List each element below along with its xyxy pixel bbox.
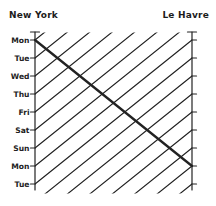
westbound-ship-line: [35, 112, 192, 206]
westbound-ship-line: [35, 4, 192, 130]
day-label: Mon: [11, 162, 29, 171]
day-label: Wed: [11, 72, 30, 81]
day-label: Thu: [14, 90, 30, 99]
westbound-ship-line: [35, 166, 192, 206]
day-label: Tue: [15, 180, 30, 189]
day-label: Sun: [13, 144, 29, 153]
day-label: Tue: [15, 54, 30, 63]
westbound-ship-line: [35, 184, 192, 206]
diagram-canvas: MonTueWedThuFriSatSunMonTue: [0, 0, 216, 206]
westbound-ship-line: [35, 0, 192, 76]
westbound-ship-line: [35, 0, 192, 94]
westbound-ship-line: [35, 130, 192, 206]
westbound-ship-line: [35, 58, 192, 184]
westbound-ship-line: [35, 0, 192, 40]
day-label: Fri: [18, 108, 29, 117]
westbound-ship-line: [35, 22, 192, 148]
ship-schedule-diagram: New York Le Havre MonTueWedThuFriSatSunM…: [0, 0, 216, 206]
day-label: Mon: [11, 36, 29, 45]
westbound-ship-line: [35, 76, 192, 202]
day-label: Sat: [15, 126, 30, 135]
